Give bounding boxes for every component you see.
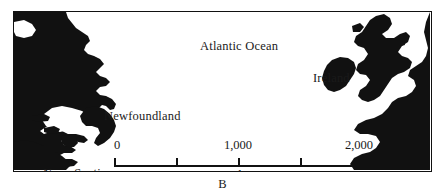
scale-tick-2000 — [360, 158, 362, 166]
scale-tick-label-0: 0 — [114, 139, 120, 152]
scale-tick-label-2000: 2,000 — [345, 139, 373, 152]
scale-tick-1000 — [238, 158, 240, 166]
scale-tick-500 — [176, 158, 178, 166]
map-label-ireland: Ireland — [313, 72, 350, 85]
scale-tick-label-1000: 1,000 — [224, 139, 252, 152]
scale-tick-0 — [114, 158, 116, 166]
map-label-nova-scotia: Nova Scotia — [43, 167, 107, 172]
islands-hebrides — [352, 23, 364, 32]
figure-caption: B — [0, 178, 445, 191]
scale-tick-1500 — [300, 158, 302, 166]
map-frame: Atlantic Ocean Newfoundland Nova Scotia … — [13, 11, 432, 172]
figure-map-b: Atlantic Ocean Newfoundland Nova Scotia … — [0, 0, 445, 196]
scale-unit-label: Miles — [224, 169, 252, 172]
scale-bar — [114, 158, 362, 167]
map-label-atlantic-ocean: Atlantic Ocean — [200, 40, 278, 53]
map-label-newfoundland: Newfoundland — [104, 110, 181, 123]
